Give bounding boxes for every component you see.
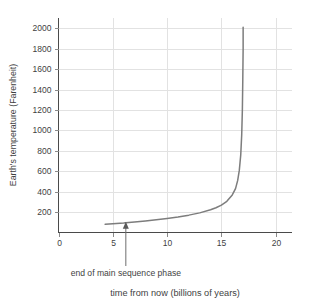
x-tick-label: 0: [57, 238, 62, 248]
y-tick-label: 1200: [33, 105, 52, 115]
y-tick-label: 200: [37, 207, 51, 217]
chart-container: 200400600800100012001400160018002000 051…: [0, 0, 315, 306]
y-tick-label: 800: [37, 146, 51, 156]
y-tick-label: 1600: [33, 64, 52, 74]
x-axis-title: time from now (billions of years): [110, 288, 240, 298]
x-tick-label: 20: [272, 238, 282, 248]
y-axis-title: Earth's temperature (Farenheit): [8, 64, 18, 187]
y-tick-label: 1400: [33, 85, 52, 95]
y-tick-label: 2000: [33, 23, 52, 33]
y-tick-label: 1000: [33, 125, 52, 135]
x-tick-label: 10: [163, 238, 173, 248]
x-tick-label: 5: [111, 238, 116, 248]
y-tick-label: 400: [37, 187, 51, 197]
x-tick-label: 15: [217, 238, 227, 248]
y-tick-label: 1800: [33, 44, 52, 54]
y-tick-label: 600: [37, 166, 51, 176]
annotation-label: end of main sequence phase: [71, 268, 182, 278]
temperature-vs-time-chart: 200400600800100012001400160018002000 051…: [0, 0, 315, 306]
